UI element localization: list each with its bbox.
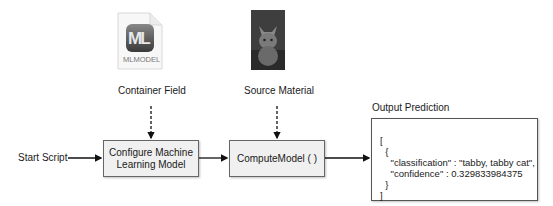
source-cat-image [251, 10, 285, 70]
container-field-label: Container Field [118, 85, 186, 96]
source-material-label: Source Material [244, 85, 314, 96]
ml-badge-text: ML [128, 29, 149, 49]
configure-model-step: Configure Machine Learning Model [103, 140, 199, 177]
json-line: ] [380, 190, 537, 201]
configure-line-1: Configure Machine [109, 147, 193, 159]
output-prediction-title: Output Prediction [372, 102, 449, 113]
json-line: } [380, 179, 537, 190]
file-type-label: MLMODEL [123, 55, 160, 64]
json-line: "classification" : "tabby, tabby cat", [380, 157, 537, 168]
mlmodel-file-icon: ML MLMODEL [117, 12, 163, 70]
json-line: "confidence" : 0.329833984375 [380, 168, 537, 179]
compute-label: ComputeModel ( ) [237, 153, 317, 165]
compute-model-step: ComputeModel ( ) [229, 140, 325, 177]
output-json-box: [ { "classification" : "tabby, tabby cat… [371, 118, 538, 201]
json-line: { [380, 146, 537, 157]
configure-line-2: Learning Model [109, 159, 193, 171]
json-line: [ [380, 135, 537, 146]
start-script-label: Start Script [18, 152, 67, 163]
